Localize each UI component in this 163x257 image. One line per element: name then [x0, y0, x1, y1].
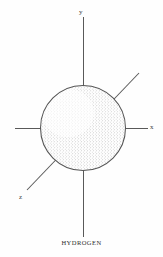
orbital-diagram	[0, 0, 163, 257]
z-axis-label: z	[19, 194, 22, 201]
hydrogen-orbital-figure: y x z HYDROGEN	[0, 0, 163, 257]
x-axis-label: x	[150, 124, 154, 131]
electron-cloud-stipple	[38, 83, 131, 175]
y-axis-label: y	[79, 9, 83, 16]
figure-caption: HYDROGEN	[0, 239, 163, 246]
